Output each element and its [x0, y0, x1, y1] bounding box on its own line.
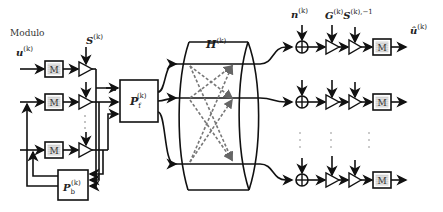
scaling-amp-icon — [79, 62, 92, 76]
channel-outputs — [260, 47, 292, 180]
svg-text:M: M — [377, 176, 386, 186]
input-label: u(k) — [16, 45, 33, 58]
scaling-label: S(k) — [86, 33, 103, 46]
inverse-scaling-amp-icon — [349, 95, 361, 109]
svg-text:M: M — [377, 98, 386, 108]
adder-icon — [296, 96, 308, 108]
gain-amp-icon — [326, 173, 339, 187]
precoder-outputs — [158, 64, 176, 164]
noise-label: n(k) — [291, 7, 308, 20]
modulo-block: M — [373, 94, 391, 110]
gain-amp-icon — [326, 95, 339, 109]
scaling-amp-icon — [79, 95, 92, 109]
channel-paths — [176, 64, 260, 164]
scaling-amp-icon — [79, 143, 92, 157]
inverse-scaling-amp-icon — [349, 40, 361, 54]
cross-coupling — [190, 66, 232, 162]
svg-text:M: M — [377, 43, 386, 53]
modulo-title: Modulo — [10, 28, 45, 38]
tx-row-2: M — [20, 82, 99, 110]
adder-icon — [296, 41, 308, 53]
receiver-gain-label: G(k)S(k),−1 — [325, 8, 373, 21]
output-label: û(k) — [410, 23, 427, 36]
modulo-block: M — [45, 61, 63, 77]
amp-output-bus — [90, 69, 118, 186]
modulo-block: M — [373, 172, 391, 188]
modulo-block: M — [373, 39, 391, 55]
svg-text:M: M — [49, 146, 58, 156]
ellipsis-right — [299, 132, 370, 148]
channel-label: H(k) — [205, 37, 226, 51]
adder-icon — [296, 174, 308, 186]
rx-row-1: M — [296, 25, 406, 55]
inverse-scaling-amp-icon — [349, 173, 361, 187]
rx-row-2: M — [296, 80, 406, 110]
modulo-block: M — [45, 94, 63, 110]
gain-amp-icon — [326, 40, 339, 54]
svg-text:M: M — [49, 65, 58, 75]
feedback-matrix-block: Pb(k) — [58, 170, 88, 200]
block-diagram: Modulo u(k) S(k) M M — [0, 0, 443, 212]
rx-row-3: M — [296, 156, 406, 188]
svg-text:M: M — [49, 98, 58, 108]
feedforward-matrix-block: Pf(k) — [120, 80, 158, 122]
ellipsis-left — [84, 115, 86, 129]
modulo-block: M — [45, 142, 63, 158]
